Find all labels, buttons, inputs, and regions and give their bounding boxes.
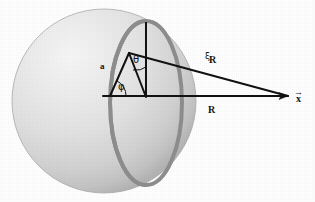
- figure-canvas: a θ φ ξR R →x: [0, 0, 315, 202]
- label-axis-R: R: [208, 105, 215, 115]
- label-xi-R: ξR: [205, 54, 217, 64]
- geometry-diagram-svg: [0, 0, 315, 202]
- label-xi-subscript-R: R: [209, 54, 216, 65]
- label-radius-a: a: [100, 62, 105, 71]
- label-position-vector-x: →x: [294, 90, 303, 104]
- label-theta-angle: θ: [133, 55, 139, 65]
- label-phi-angle: φ: [118, 82, 125, 92]
